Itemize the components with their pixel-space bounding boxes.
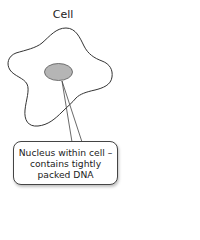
callout-line-1: Nucleus within cell – [14, 147, 117, 158]
pointer-line-right [62, 81, 82, 142]
callout-line-2: contains tightly [14, 158, 117, 169]
nucleus [45, 64, 73, 81]
callout-line-3: packed DNA [14, 169, 117, 180]
nucleus-callout: Nucleus within cell – contains tightly p… [13, 141, 118, 185]
pointer-line-left [62, 81, 72, 142]
